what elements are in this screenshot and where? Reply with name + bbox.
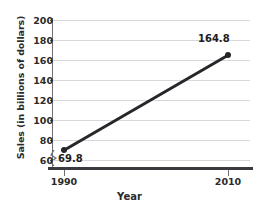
x-axis-title: Year	[0, 191, 259, 202]
y-tick-label-120: 120	[13, 95, 53, 106]
data-label-1990: 69.8	[58, 153, 83, 164]
y-tick-label-140: 140	[13, 75, 53, 86]
plot-area: 69.8 164.8	[53, 20, 250, 160]
x-axis-line	[48, 167, 253, 170]
data-label-2010: 164.8	[198, 33, 230, 44]
y-tick-label-60: 60	[13, 155, 53, 166]
x-tick-label-2010: 2010	[206, 176, 250, 187]
y-tick-label-180: 180	[13, 35, 53, 46]
y-tick-label-80: 80	[13, 135, 53, 146]
line-chart: Sales (in billions of dollars) 69.8 164.…	[0, 0, 259, 210]
y-tick-label-100: 100	[13, 115, 53, 126]
y-tick-label-160: 160	[13, 55, 53, 66]
x-tick-label-1990: 1990	[42, 176, 86, 187]
y-tick-label-200: 200	[13, 15, 53, 26]
